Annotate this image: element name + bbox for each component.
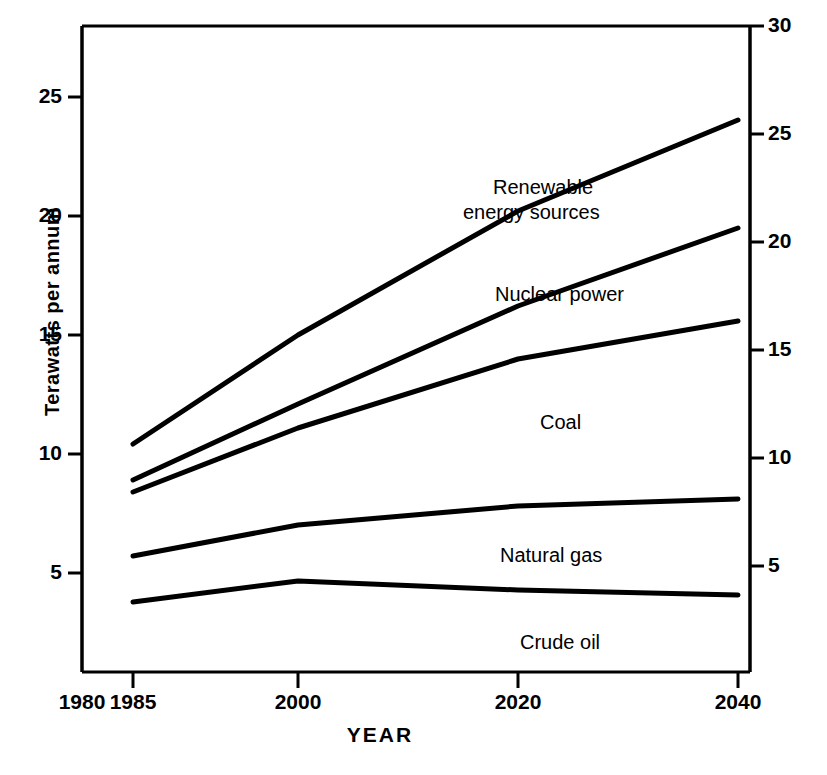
ytick-label-right-20: 20 [768,229,814,253]
xtick-label-1985: 1985 [88,690,178,714]
y-axis-left-ticks [68,97,82,573]
series-label-nuclear-power: Nuclear power [495,282,624,307]
chart-figure: 25 20 15 10 5 30 25 20 15 10 5 1980 1985… [0,0,827,775]
xtick-label-2020: 2020 [473,690,563,714]
ytick-label-left-5: 5 [20,560,62,584]
series-label-renewable-energy-sources-line2: energy sources [463,200,600,225]
y-axis-left-title: Terawatts per annum [41,202,64,422]
xtick-label-2040: 2040 [693,690,783,714]
xtick-label-2000: 2000 [253,690,343,714]
x-axis-ticks [133,672,738,688]
series-line-renewable-energy-sources [133,120,738,444]
x-axis-title: YEAR [0,723,760,747]
ytick-label-right-25: 25 [768,121,814,145]
ytick-label-right-15: 15 [768,337,814,361]
ytick-label-right-5: 5 [768,553,814,577]
series-label-renewable-energy-sources-line1: Renewable [493,175,593,200]
y-axis-right-ticks [750,26,764,566]
series-label-coal: Coal [540,410,581,435]
ytick-label-left-25: 25 [20,84,62,108]
series-line-coal [133,321,738,492]
series-line-nuclear-power [133,228,738,480]
chart-canvas [0,0,827,775]
series-label-natural-gas: Natural gas [500,543,602,568]
series-line-natural-gas [133,499,738,556]
ytick-label-right-30: 30 [768,13,814,37]
series-line-crude-oil [133,581,738,602]
series-label-crude-oil: Crude oil [520,630,600,655]
ytick-label-right-10: 10 [768,445,814,469]
ytick-label-left-10: 10 [20,441,62,465]
